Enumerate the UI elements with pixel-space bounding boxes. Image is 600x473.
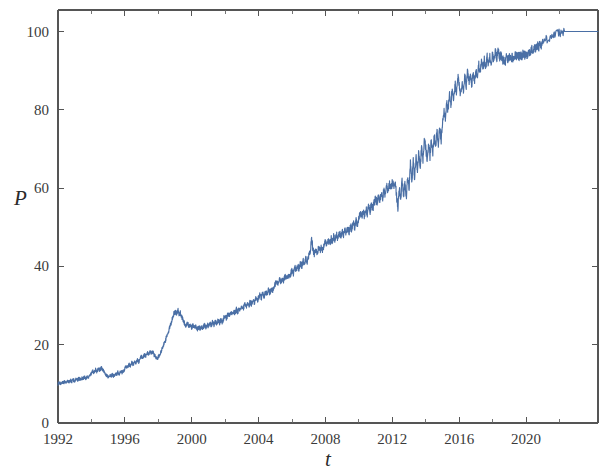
- x-tick-label-1996: 1996: [110, 431, 141, 447]
- data-series-group: [58, 28, 598, 385]
- y-tick-label-40: 40: [34, 258, 49, 274]
- x-axis-title: t: [325, 447, 332, 471]
- x-axis-ticks: [58, 10, 560, 423]
- y-tick-label-0: 0: [42, 415, 50, 431]
- x-tick-label-2000: 2000: [177, 431, 207, 447]
- y-axis-title: P: [13, 186, 27, 210]
- x-tick-label-1992: 1992: [43, 431, 73, 447]
- x-tick-label-2004: 2004: [244, 431, 275, 447]
- y-tick-label-80: 80: [34, 102, 49, 118]
- chart-figure: 19921996200020042008201220162020 0204060…: [0, 0, 600, 473]
- x-axis-tick-labels: 19921996200020042008201220162020: [43, 431, 541, 447]
- y-tick-label-60: 60: [34, 180, 49, 196]
- y-axis-ticks: [58, 32, 598, 423]
- x-tick-label-2016: 2016: [444, 431, 475, 447]
- x-tick-label-2020: 2020: [511, 431, 541, 447]
- x-tick-label-2008: 2008: [310, 431, 340, 447]
- x-tick-label-2012: 2012: [377, 431, 407, 447]
- y-tick-label-100: 100: [27, 24, 50, 40]
- y-tick-label-20: 20: [34, 337, 49, 353]
- line-chart-svg: 19921996200020042008201220162020 0204060…: [0, 0, 600, 473]
- series-line-P: [58, 28, 598, 385]
- y-axis-tick-labels: 020406080100: [27, 24, 50, 431]
